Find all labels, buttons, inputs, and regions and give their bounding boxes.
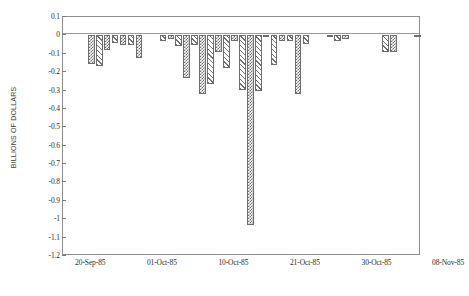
bar (279, 35, 286, 41)
y-tick-label: 0.1 (14, 12, 60, 21)
bar (295, 35, 302, 93)
bar (175, 35, 182, 46)
bar (255, 35, 262, 90)
plot-area (62, 16, 420, 255)
bar (191, 35, 198, 45)
bar (199, 35, 206, 93)
bar (271, 35, 278, 64)
y-axis-ticks: 0.10-0.1-0.2-0.3-0.4-0.5-0.6-0.7-0.8-0.9… (0, 0, 60, 296)
y-tick-label: 0 (14, 30, 60, 39)
bar (128, 35, 135, 45)
bar (231, 35, 238, 41)
y-tick-label: -0.2 (14, 67, 60, 76)
y-tick-mark (62, 181, 66, 182)
y-tick-label: -0.9 (14, 195, 60, 204)
bar (223, 35, 230, 67)
y-tick-mark (62, 108, 66, 109)
bar (207, 35, 214, 84)
x-tick-label: 21-Oct-85 (270, 258, 340, 267)
bar (342, 35, 349, 39)
y-tick-mark (62, 255, 66, 256)
y-tick-mark (62, 34, 66, 35)
bar (303, 35, 310, 43)
bar (88, 35, 95, 63)
bar (390, 35, 397, 51)
bar (327, 35, 334, 37)
bar (183, 35, 190, 77)
x-tick-label: 01-Oct-85 (127, 258, 197, 267)
bar (120, 35, 127, 45)
bar (414, 35, 421, 37)
y-tick-mark (62, 90, 66, 91)
bars-container (63, 17, 419, 254)
x-tick-label: 08-Nov-85 (413, 258, 469, 267)
bar (239, 35, 246, 89)
y-tick-mark (62, 145, 66, 146)
bar (263, 35, 270, 37)
bar (334, 35, 341, 41)
y-tick-label: -1.2 (14, 251, 60, 260)
bar (96, 35, 103, 66)
y-tick-label: -0.3 (14, 85, 60, 94)
y-tick-mark (62, 237, 66, 238)
y-tick-mark (62, 200, 66, 201)
y-tick-mark (62, 218, 66, 219)
y-tick-label: -1.1 (14, 232, 60, 241)
x-tick-label: 10-Oct-85 (198, 258, 268, 267)
bar (168, 35, 175, 39)
y-tick-mark (62, 71, 66, 72)
bar (215, 35, 222, 52)
x-tick-label: 20-Sep-85 (55, 258, 125, 267)
y-tick-label: -1 (14, 214, 60, 223)
y-tick-label: -0.6 (14, 140, 60, 149)
x-tick-label: 30-Oct-85 (342, 258, 412, 267)
y-tick-label: -0.7 (14, 159, 60, 168)
y-tick-label: -0.5 (14, 122, 60, 131)
y-tick-mark (62, 126, 66, 127)
bar (112, 35, 119, 42)
y-tick-label: -0.1 (14, 48, 60, 57)
bar (160, 35, 167, 41)
y-tick-label: -0.8 (14, 177, 60, 186)
bar (382, 35, 389, 52)
y-tick-mark (62, 53, 66, 54)
y-tick-mark (62, 163, 66, 164)
y-tick-mark (62, 16, 66, 17)
bar (136, 35, 143, 57)
bar (287, 35, 294, 41)
y-tick-label: -0.4 (14, 103, 60, 112)
bar (247, 35, 254, 224)
bar (104, 35, 111, 50)
